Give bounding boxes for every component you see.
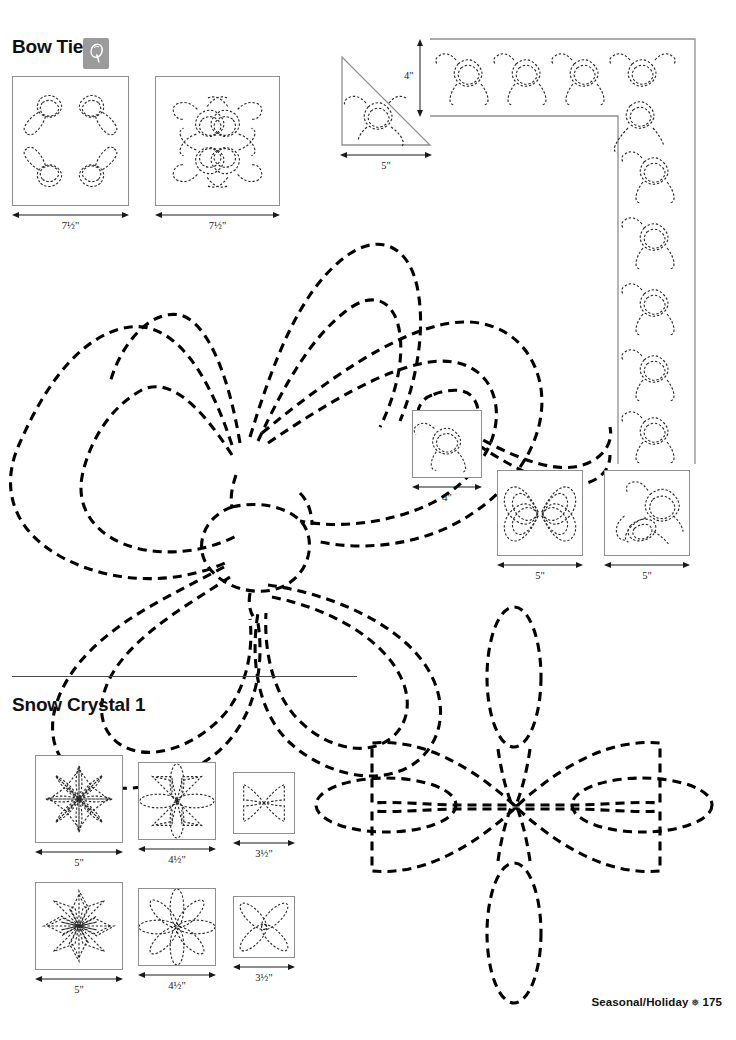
snowflake-icon: ❅ xyxy=(688,997,702,1008)
dimension-label-bow-tails: 5" xyxy=(604,570,690,581)
section-divider xyxy=(12,676,357,677)
dimension-label-bow-single: 4" xyxy=(412,492,482,503)
dimension-label-snow-r1c3: 3½" xyxy=(233,848,295,859)
quilting-q-icon xyxy=(83,38,109,69)
large-bow-motif xyxy=(0,115,620,675)
block-bow-single-tails-square xyxy=(604,470,690,556)
dimension-line-snow-r1c2 xyxy=(138,844,216,854)
dimension-line-bow-tails xyxy=(604,560,690,570)
dimension-line-snow-r1c3 xyxy=(233,838,295,848)
dimension-line-snow-r2c1 xyxy=(35,974,123,984)
large-snow-crystal-motif xyxy=(318,605,718,1005)
page-title-snow-crystal: Snow Crystal 1 xyxy=(12,694,145,716)
block-snow-4petal-square xyxy=(233,896,295,958)
dimension-line-snow-r2c2 xyxy=(138,970,216,980)
dimension-label-snow-r1c1: 5" xyxy=(35,857,123,868)
block-snow-8point-star-square xyxy=(35,755,123,843)
dimension-line-bow-single xyxy=(412,482,482,492)
block-snow-4kite-square xyxy=(233,772,295,834)
page-canvas: Bow Tie xyxy=(0,0,736,1040)
page-footer: Seasonal/Holiday❅175 xyxy=(592,996,722,1008)
dimension-label-snow-r1c2: 4½" xyxy=(138,854,216,865)
block-snow-8point-star-alt-square xyxy=(35,882,123,970)
block-bow-single-square xyxy=(412,410,482,478)
footer-category: Seasonal/Holiday xyxy=(592,996,689,1008)
page-title-bow-tie: Bow Tie xyxy=(12,36,83,58)
dimension-line-rosette xyxy=(497,560,583,570)
block-snow-8petal-daisy-square xyxy=(138,762,216,840)
dimension-label-rosette: 5" xyxy=(497,570,583,581)
dimension-label-border-corner: 4" xyxy=(404,70,414,81)
footer-page-number: 175 xyxy=(703,996,723,1008)
dimension-line-snow-r2c3 xyxy=(233,962,295,972)
dimension-line-snow-r1c1 xyxy=(35,847,123,857)
dimension-label-snow-r2c3: 3½" xyxy=(233,972,295,983)
dimension-label-snow-r2c2: 4½" xyxy=(138,980,216,991)
block-bow-rosette-square xyxy=(497,470,583,556)
dimension-label-snow-r2c1: 5" xyxy=(35,984,123,995)
block-snow-8petal-daisy-alt-square xyxy=(138,888,216,966)
